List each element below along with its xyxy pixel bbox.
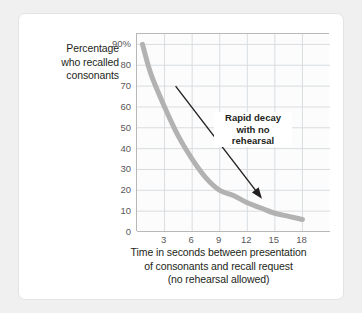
y-tick-label: 70	[91, 80, 131, 91]
annotation-line-3: rehearsal	[214, 135, 292, 147]
x-axis-title-line-2: of consonants and recall request	[111, 260, 326, 274]
x-axis-title-line-1: Time in seconds between presentation	[111, 246, 326, 260]
y-axis-tick-labels: 90%80706050403020100	[91, 28, 131, 226]
y-tick-label: 20	[91, 184, 131, 195]
x-tick-label: 6	[179, 234, 203, 245]
annotation-line-2: with no	[214, 124, 292, 136]
y-tick-label: 40	[91, 142, 131, 153]
x-axis-title: Time in seconds between presentation of …	[111, 246, 326, 287]
x-axis-title-line-3: (no rehearsal allowed)	[111, 273, 326, 287]
annotation-line-1: Rapid decay	[214, 112, 292, 124]
y-tick-label: 0	[91, 226, 131, 237]
y-tick-label: 80	[91, 59, 131, 70]
annotation-label: Rapid decay with no rehearsal	[214, 112, 292, 147]
y-tick-label: 10	[91, 205, 131, 216]
x-tick-label: 9	[207, 234, 231, 245]
x-tick-label: 18	[289, 234, 313, 245]
y-tick-label: 30	[91, 163, 131, 174]
x-tick-label: 15	[262, 234, 286, 245]
y-tick-label: 60	[91, 100, 131, 111]
x-tick-label: 3	[152, 234, 176, 245]
x-tick-label: 12	[234, 234, 258, 245]
y-tick-label: 50	[91, 121, 131, 132]
figure-card: Percentage who recalled consonants 90%80…	[18, 13, 344, 300]
y-tick-label: 90%	[91, 38, 131, 49]
